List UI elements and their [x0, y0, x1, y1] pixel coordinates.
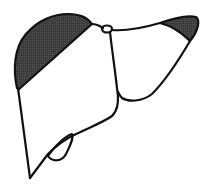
- small-lobe-lower-outline: [118, 41, 190, 101]
- central-divider-line: [110, 32, 118, 97]
- left-superior-shaded-region: [15, 14, 92, 90]
- large-lobe-lower-edge: [30, 96, 118, 178]
- liver-diagram: [0, 0, 213, 194]
- large-lobe-left-edge: [18, 88, 30, 178]
